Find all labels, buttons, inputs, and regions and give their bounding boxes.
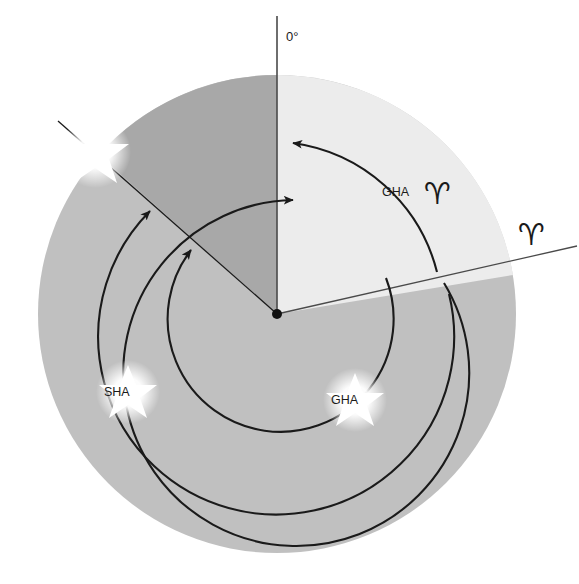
gha-star-label: GHA: [331, 393, 359, 407]
zero-degree-label: 0°: [286, 29, 298, 44]
aries-point-symbol: ♈: [518, 217, 545, 252]
diagram-canvas: 0° GHA ♈ ♈ SHA GHA: [0, 0, 579, 584]
gha-aries-label-symbol: ♈: [424, 176, 451, 211]
hour-angle-diagram: 0° GHA ♈ ♈ SHA GHA: [0, 0, 579, 584]
observer-center-point: [272, 309, 282, 319]
gha-aries-label-text: GHA: [382, 185, 410, 199]
star-marker-celestial-body: [59, 116, 131, 188]
sha-star-label: SHA: [104, 385, 130, 399]
